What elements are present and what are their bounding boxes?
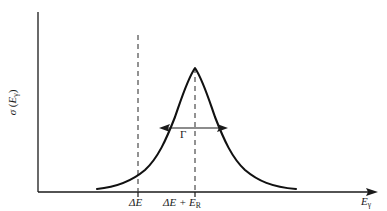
resonance-cross-section-figure: σ (Eγ) Eγ ΔE ΔE + ER Γ (0, 0, 387, 211)
tick-label-delta-e: ΔE (129, 197, 142, 208)
tick-label-delta-e-plus-er: ΔE + ER (163, 197, 201, 210)
y-axis-label-sigma: σ (6, 110, 18, 115)
tick-label-delta-e-plus-er-subscript: R (196, 201, 201, 210)
y-axis-label-open: ( (6, 103, 18, 109)
tick-label-delta-e-plus-er-operator: + E (176, 196, 196, 208)
x-axis-label: Eγ (361, 196, 371, 209)
x-axis-label-subscript: γ (368, 200, 371, 209)
tick-label-delta-e-plus-er-first: ΔE (163, 196, 176, 208)
tick-label-delta-e-text: ΔE (129, 196, 142, 208)
plot-canvas (0, 0, 387, 211)
fwhm-label: Γ (180, 129, 186, 140)
y-axis-label: σ (Eγ) (7, 73, 20, 133)
y-axis-label-close: ) (6, 90, 18, 94)
y-axis-label-arg: E (6, 97, 18, 104)
y-axis-label-arg-subscript: γ (11, 93, 20, 96)
fwhm-label-text: Γ (180, 128, 186, 140)
x-axis-label-main: E (361, 195, 368, 207)
